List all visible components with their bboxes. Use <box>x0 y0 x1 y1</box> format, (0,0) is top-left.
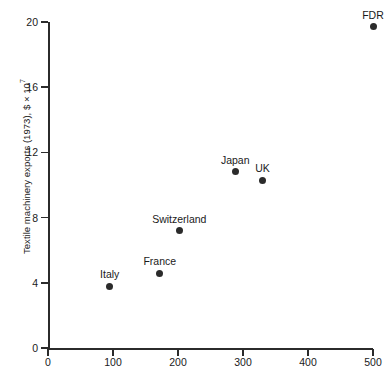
data-point-fdr[interactable] <box>370 23 377 30</box>
data-point-label-italy: Italy <box>100 269 119 280</box>
x-tick-label-100: 100 <box>93 357 133 368</box>
y-tick-label-4: 4 <box>14 278 38 289</box>
data-point-france[interactable] <box>156 270 163 277</box>
scatter-chart: Textile machinery exports (1973), $ × 10… <box>0 0 387 387</box>
x-tick-label-200: 200 <box>158 357 198 368</box>
y-tick-4 <box>41 282 48 284</box>
x-tick-label-300: 300 <box>223 357 263 368</box>
y-tick-label-16: 16 <box>14 82 38 93</box>
y-tick-16 <box>41 86 48 88</box>
x-tick-400 <box>307 349 309 356</box>
x-tick-label-0: 0 <box>28 357 68 368</box>
x-tick-0 <box>47 349 49 356</box>
x-axis-line <box>48 348 373 350</box>
y-tick-20 <box>41 21 48 23</box>
data-point-japan[interactable] <box>232 168 239 175</box>
x-tick-500 <box>372 349 374 356</box>
y-axis-title-text: Textile machinery exports (1973), $ × 10 <box>21 83 32 254</box>
y-tick-label-12: 12 <box>14 147 38 158</box>
data-point-switzerland[interactable] <box>176 227 183 234</box>
data-point-label-switzerland: Switzerland <box>152 214 206 225</box>
y-tick-label-0: 0 <box>14 343 38 354</box>
y-tick-12 <box>41 152 48 154</box>
y-tick-label-8: 8 <box>14 213 38 224</box>
x-tick-200 <box>177 349 179 356</box>
data-point-italy[interactable] <box>106 283 113 290</box>
data-point-label-japan: Japan <box>221 155 250 166</box>
y-axis-line <box>48 22 50 349</box>
data-point-label-uk: UK <box>255 163 270 174</box>
data-point-label-fdr: FDR <box>362 10 384 21</box>
y-tick-label-20: 20 <box>14 17 38 28</box>
x-tick-label-400: 400 <box>288 357 328 368</box>
x-tick-label-500: 500 <box>353 357 387 368</box>
data-point-label-france: France <box>143 256 176 267</box>
x-tick-300 <box>242 349 244 356</box>
x-tick-100 <box>112 349 114 356</box>
data-point-uk[interactable] <box>259 177 266 184</box>
y-tick-8 <box>41 217 48 219</box>
